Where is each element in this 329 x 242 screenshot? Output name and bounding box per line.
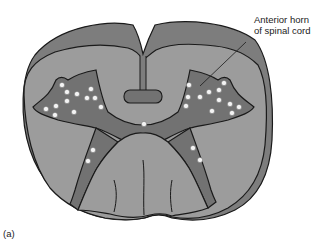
- panel-label: (a): [3, 228, 15, 239]
- median-fissure: [140, 56, 146, 92]
- annotation-line-2: of spinal cord: [254, 25, 311, 36]
- spinal-cord-diagram: [0, 0, 329, 242]
- central-canal: [124, 90, 162, 103]
- annotation-line-1: Anterior horn: [254, 14, 311, 25]
- annotation-anterior-horn: Anterior horn of spinal cord: [254, 14, 311, 36]
